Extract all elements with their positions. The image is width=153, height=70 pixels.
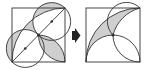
lower-center-dot xyxy=(24,47,27,50)
lower-arc xyxy=(86,35,113,62)
right-figure xyxy=(86,2,140,62)
midpoint-dot xyxy=(111,33,114,36)
diagram-canvas xyxy=(0,0,153,70)
midpoint-dot xyxy=(37,33,40,36)
right-arrow-icon xyxy=(72,28,81,43)
upper-center-dot xyxy=(50,20,53,23)
left-figure xyxy=(6,3,70,68)
